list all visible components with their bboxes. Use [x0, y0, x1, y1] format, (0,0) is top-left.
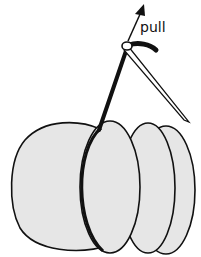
needle	[124, 46, 189, 122]
pull-label: pull	[140, 20, 166, 34]
thread-tail	[129, 44, 156, 50]
needle-eye	[122, 42, 132, 50]
thread	[99, 48, 127, 130]
pull-arrow-head-icon	[135, 4, 145, 16]
fabric-circle-front	[80, 121, 140, 253]
diagram-figure	[0, 0, 201, 257]
